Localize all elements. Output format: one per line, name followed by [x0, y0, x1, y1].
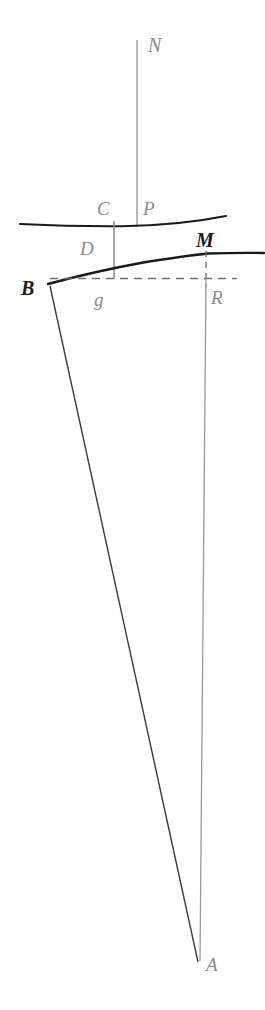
line-B-to-A [50, 286, 198, 962]
label-g: g [94, 290, 104, 309]
label-M: M [196, 230, 214, 250]
label-D: D [80, 239, 94, 258]
label-P: P [143, 199, 155, 218]
label-N: N [148, 35, 161, 55]
label-R: R [211, 288, 223, 307]
label-A: A [206, 955, 218, 974]
label-B: B [21, 278, 34, 298]
figure-canvas [0, 0, 265, 1010]
upper-curve [20, 216, 226, 226]
label-C: C [97, 199, 110, 218]
geometric-figure: N C P D M B g R A [0, 0, 265, 1010]
line-R-to-A [200, 279, 206, 961]
